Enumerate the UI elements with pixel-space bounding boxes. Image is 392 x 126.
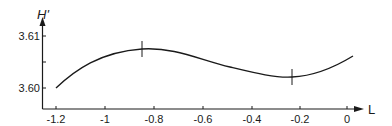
x-tick-label: -0.4 xyxy=(243,113,262,125)
x-tick-label: -0.2 xyxy=(291,113,310,125)
chart: H' 3.61 3.60 L -1.2 -1 -0.8 -0.6 -0.4 -0… xyxy=(0,0,392,126)
y-tick-label: 3.61 xyxy=(19,30,40,42)
x-tick-label: -1 xyxy=(100,113,110,125)
x-tick-label: -1.2 xyxy=(47,113,66,125)
x-tick-label: 0 xyxy=(344,113,350,125)
x-tick-label: -0.6 xyxy=(194,113,213,125)
data-curve xyxy=(56,49,353,88)
y-tick-label: 3.60 xyxy=(19,82,40,94)
y-axis-label: H' xyxy=(37,7,49,22)
x-axis-label: L xyxy=(368,102,375,117)
x-tick-label: -0.8 xyxy=(145,113,164,125)
x-axis-arrow-icon xyxy=(354,106,364,112)
